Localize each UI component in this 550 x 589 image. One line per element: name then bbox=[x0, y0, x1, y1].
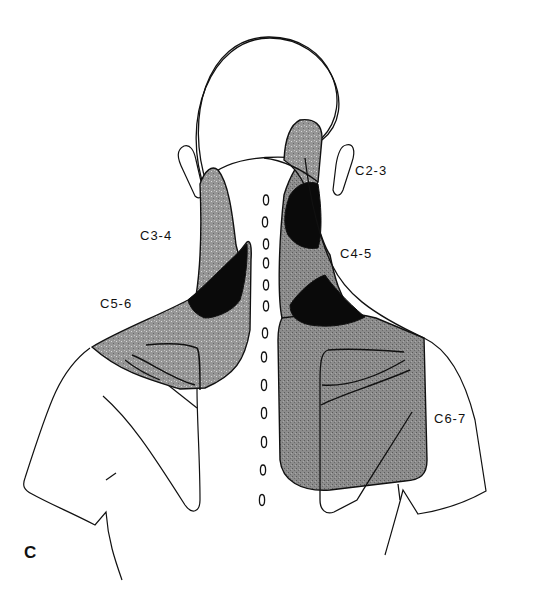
dermatome-diagram bbox=[0, 0, 550, 589]
left-arm-inner bbox=[106, 473, 116, 480]
spinous-process bbox=[260, 465, 265, 475]
label-c4-5: C4-5 bbox=[340, 246, 372, 261]
right-ear bbox=[333, 145, 354, 196]
label-c2-3: C2-3 bbox=[355, 163, 387, 178]
right-arm-inner bbox=[398, 484, 400, 500]
spinous-process bbox=[263, 301, 268, 311]
spinous-process bbox=[261, 380, 266, 391]
spinous-process bbox=[263, 280, 268, 290]
spinous-process bbox=[263, 258, 268, 268]
region-c6-7 bbox=[278, 310, 427, 490]
spinous-process bbox=[262, 328, 267, 338]
label-c6-7: C6-7 bbox=[434, 411, 466, 426]
spinous-process bbox=[263, 195, 268, 205]
spinous-process bbox=[261, 352, 266, 362]
left-scapula bbox=[103, 388, 200, 511]
spinous-process bbox=[261, 437, 266, 448]
spinous-processes bbox=[259, 195, 268, 506]
spinous-process bbox=[259, 495, 264, 506]
torso-outline bbox=[24, 348, 122, 580]
panel-letter: C bbox=[24, 543, 36, 563]
spinous-process bbox=[263, 239, 268, 249]
label-c3-4: C3-4 bbox=[140, 228, 172, 243]
spinous-process bbox=[262, 217, 267, 227]
label-c5-6: C5-6 bbox=[100, 296, 132, 311]
spinous-process bbox=[261, 408, 266, 419]
